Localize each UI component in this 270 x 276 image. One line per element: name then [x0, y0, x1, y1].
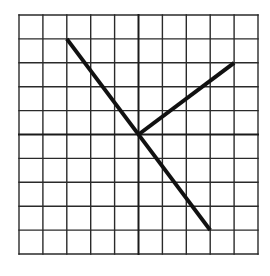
grid-diagram	[0, 0, 270, 276]
